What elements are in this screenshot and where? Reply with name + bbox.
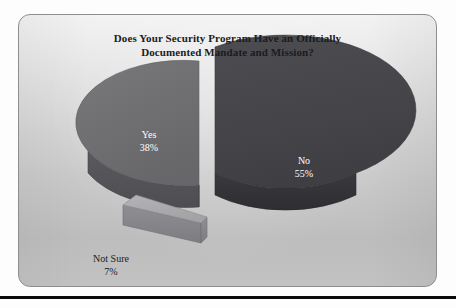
chart-title-line-1: Does Your Security Program Have an Offic… [19,31,436,45]
pie-label-not-sure-value: 7% [71,266,151,279]
pie-label-yes-value: 38% [119,142,179,155]
pie-label-no-name: No [274,155,334,168]
chart-frame: Does Your Security Program Have an Offic… [18,14,437,287]
pie-slice-no[interactable] [215,35,416,210]
pie-label-no: No 55% [274,155,334,180]
pie-label-no-value: 55% [274,168,334,181]
pie-label-not-sure: Not Sure 7% [71,253,151,278]
pie-label-yes: Yes 38% [119,129,179,154]
page-root: Does Your Security Program Have an Offic… [0,0,456,308]
chart-title-line-2: Documented Mandate and Mission? [19,45,436,59]
chart-title: Does Your Security Program Have an Offic… [19,31,436,59]
bottom-divider-rule [0,296,456,299]
pie-label-yes-name: Yes [119,129,179,142]
pie-label-not-sure-name: Not Sure [71,253,151,266]
